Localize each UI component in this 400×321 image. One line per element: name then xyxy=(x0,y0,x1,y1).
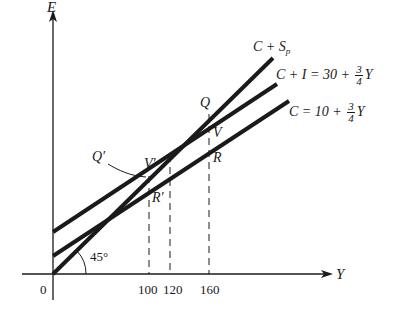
x-tick-100: 100 xyxy=(138,283,158,296)
c-plus-i-lhs: C + I = 30 + xyxy=(276,67,353,82)
y-axis-label: Y xyxy=(336,267,344,282)
point-r-prime-label: R′ xyxy=(152,191,164,205)
c-var: Y xyxy=(357,104,365,119)
c-plus-sp-label: C + Sp xyxy=(253,40,290,56)
point-r-label: R xyxy=(213,151,222,165)
c-plus-sp-prefix: C + xyxy=(253,39,279,54)
c-plus-i-line xyxy=(53,84,277,232)
x-tick-160: 160 xyxy=(200,283,220,296)
e-axis-label: E xyxy=(47,0,56,15)
point-q-label: Q xyxy=(200,96,210,110)
c-line xyxy=(53,101,289,256)
keynesian-cross-diagram: E Y 0 45° 100 120 160 C + Sp C + I = 30 … xyxy=(0,0,400,321)
c-lhs: C = 10 + xyxy=(289,104,345,119)
origin-label: 0 xyxy=(40,283,47,296)
angle-arc xyxy=(77,251,86,274)
point-v-prime-label: V′ xyxy=(144,157,156,171)
fraction: 34 xyxy=(355,64,363,87)
fraction-denominator: 4 xyxy=(347,113,355,124)
c-plus-i-label: C + I = 30 + 34Y xyxy=(276,64,373,87)
point-v-label: V xyxy=(213,126,222,140)
fraction: 34 xyxy=(347,101,355,124)
point-q-prime-label: Q′ xyxy=(92,150,105,164)
fraction-denominator: 4 xyxy=(355,76,363,87)
c-plus-sp-line xyxy=(53,58,273,274)
sp-s: S xyxy=(279,39,286,54)
x-tick-120: 120 xyxy=(163,283,183,296)
sp-subscript: p xyxy=(286,46,291,56)
angle-label: 45° xyxy=(90,250,108,263)
c-plus-i-var: Y xyxy=(365,67,373,82)
c-label: C = 10 + 34Y xyxy=(289,101,365,124)
